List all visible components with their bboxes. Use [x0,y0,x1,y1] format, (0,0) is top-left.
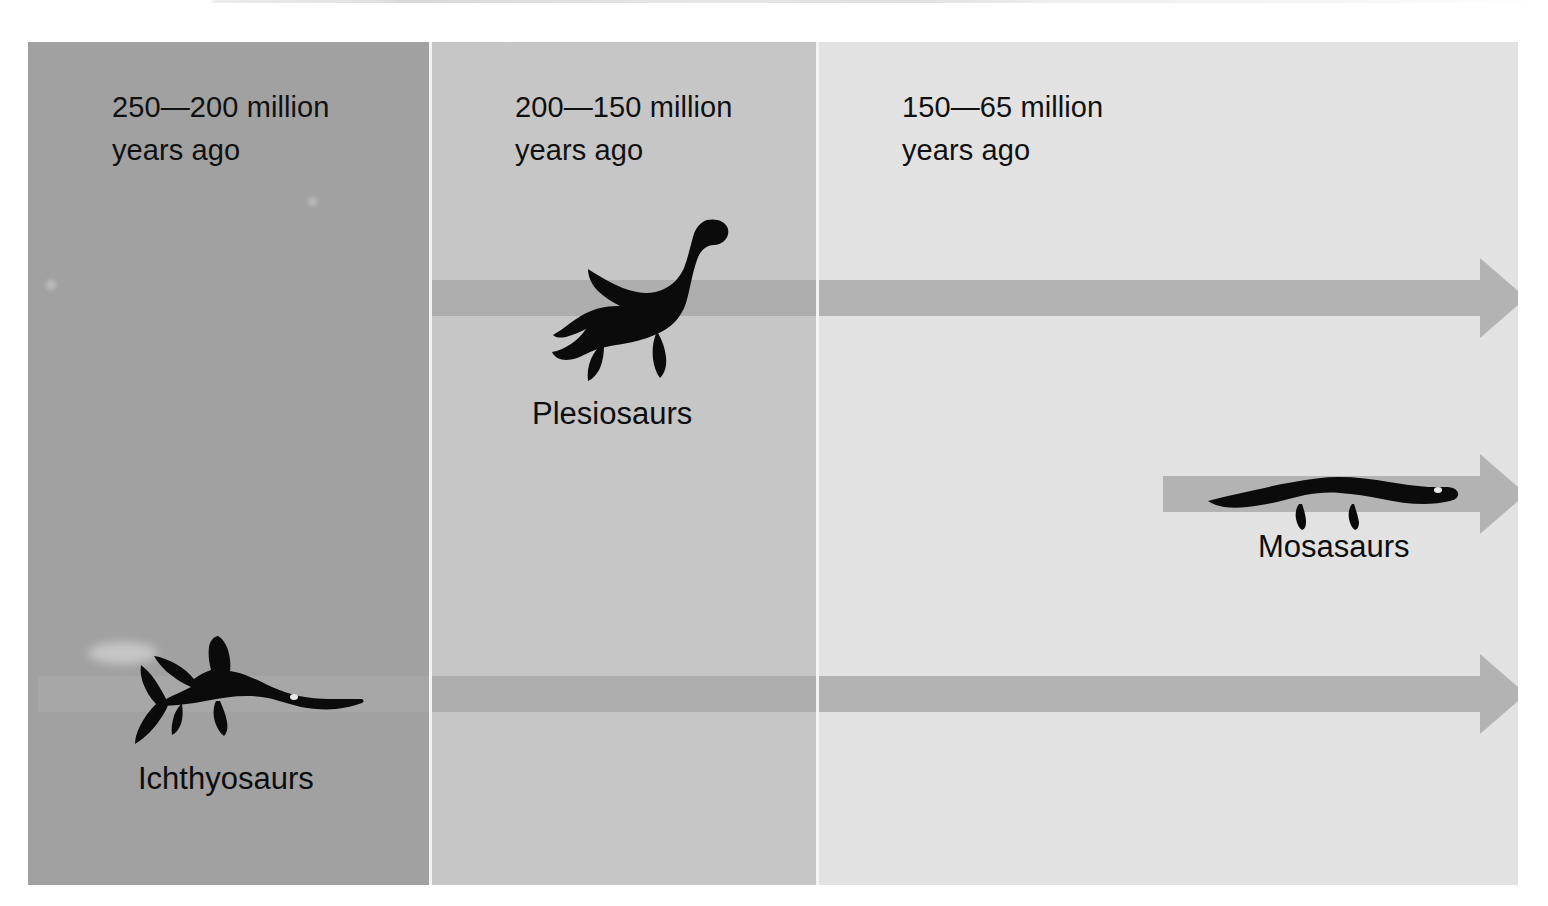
era-label-triassic: 250—200 million years ago [112,86,330,172]
timeline-plate: 250—200 million years ago 200—150 millio… [28,42,1518,885]
arrow-head [1480,258,1518,338]
timeline-figure: 250—200 million years ago 200—150 millio… [0,0,1548,906]
panel-divider-2 [816,42,819,885]
scan-artifact-line [0,0,1548,3]
mosasaur-silhouette [1206,460,1461,530]
plesiosaur-silhouette [540,207,750,382]
ichthyosaur-silhouette [116,635,366,755]
creature-label-mosasaurs: Mosasaurs [1258,530,1410,564]
arrow-head [1480,654,1518,734]
creature-label-plesiosaurs: Plesiosaurs [532,397,692,431]
scan-blemish [308,197,317,206]
scan-blemish [46,280,56,290]
era-label-cretaceous: 150—65 million years ago [902,86,1103,172]
era-label-jurassic: 200—150 million years ago [515,86,733,172]
arrow-head [1480,454,1518,534]
creature-label-ichthyosaurs: Ichthyosaurs [138,762,314,796]
panel-divider-1 [429,42,432,885]
